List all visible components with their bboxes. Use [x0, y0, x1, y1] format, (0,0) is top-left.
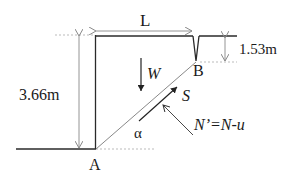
weight-label: W: [147, 66, 160, 82]
angle-label: α: [134, 126, 142, 141]
failure-plane: [96, 62, 196, 149]
wedge-diagram: L 3.66m 1.53m W S N’=N-u α A B: [0, 0, 294, 179]
shear-label: S: [182, 88, 190, 104]
normal-force-arrow: [163, 105, 193, 135]
tension-crack: [193, 36, 199, 61]
crack-depth-label: 1.53m: [239, 42, 277, 57]
shear-arrow: [139, 87, 177, 121]
length-label: L: [140, 12, 150, 29]
point-b-label: B: [193, 63, 204, 79]
normal-force-label: N’=N-u: [194, 117, 245, 133]
point-a-label: A: [89, 157, 101, 173]
height-label: 3.66m: [19, 87, 59, 103]
